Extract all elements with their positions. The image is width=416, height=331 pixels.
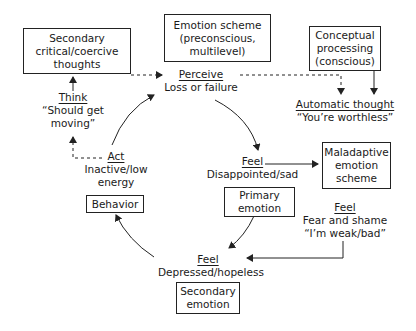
box-line: (preconscious,	[179, 32, 255, 45]
box-line: Emotion scheme	[174, 19, 262, 32]
behavior-box: Behavior	[86, 195, 144, 213]
box-line: critical/coercive	[36, 45, 119, 58]
box-line: Primary	[239, 189, 280, 202]
node-text: Depressed/hopeless	[158, 266, 258, 279]
node-text: moving”	[40, 117, 106, 130]
node-text: Disappointed/sad	[205, 168, 300, 181]
box-line: Secondary	[180, 285, 236, 298]
node-heading: Perceive	[160, 68, 242, 81]
arrow-depressed-to-behavior	[116, 215, 154, 257]
conceptual-processing-box: Conceptual processing (conscious)	[309, 26, 381, 71]
arrow-perceive-to-automatic	[240, 75, 341, 94]
node-text: Loss or failure	[160, 81, 242, 94]
node-heading: Feel	[158, 253, 258, 266]
box-line: scheme	[336, 172, 377, 185]
box-line: emotion	[238, 202, 281, 215]
box-line: processing	[317, 42, 374, 55]
feel-fear-shame-node: Feel Fear and shame “I’m weak/bad”	[300, 201, 390, 240]
box-line: (conscious)	[315, 55, 375, 68]
perceive-node: Perceive Loss or failure	[160, 68, 242, 94]
maladaptive-scheme-box: Maladaptive emotion scheme	[322, 142, 391, 189]
box-line: thoughts	[54, 58, 101, 71]
act-node: Act Inactive/low energy	[80, 150, 152, 189]
feel-disappointed-node: Feel Disappointed/sad	[205, 155, 300, 181]
box-line: Maladaptive	[324, 146, 388, 159]
automatic-thought-node: Automatic thought “You’re worthless”	[295, 98, 395, 124]
node-text: “I’m weak/bad”	[300, 227, 390, 240]
think-node: Think “Should get moving”	[40, 91, 106, 130]
node-text: Inactive/low	[80, 163, 152, 176]
box-line: emotion	[335, 159, 378, 172]
box-line: multilevel)	[190, 45, 246, 58]
node-heading: Feel	[300, 201, 390, 214]
node-text: “You’re worthless”	[295, 111, 395, 124]
feel-depressed-node: Feel Depressed/hopeless	[158, 253, 258, 279]
emotion-scheme-box: Emotion scheme (preconscious, multilevel…	[164, 14, 271, 62]
node-heading: Automatic thought	[295, 98, 395, 111]
arrow-fear-to-depressed	[247, 241, 343, 258]
box-line: emotion	[186, 298, 229, 311]
node-text: Fear and shame	[300, 214, 390, 227]
node-text: energy	[80, 176, 152, 189]
box-line: Behavior	[92, 198, 139, 211]
arrow-primary-to-depressed	[229, 216, 254, 248]
box-line: Conceptual	[315, 29, 374, 42]
arrow-perceive-to-feel	[215, 100, 258, 150]
arrow-act-to-perceive	[112, 95, 154, 145]
secondary-emotion-box: Secondary emotion	[176, 282, 240, 314]
node-heading: Feel	[205, 155, 300, 168]
secondary-thoughts-box: Secondary critical/coercive thoughts	[23, 28, 131, 74]
node-heading: Act	[80, 150, 152, 163]
primary-emotion-box: Primary emotion	[224, 187, 295, 217]
node-text: “Should get	[40, 104, 106, 117]
node-heading: Think	[40, 91, 106, 104]
box-line: Secondary	[49, 32, 105, 45]
